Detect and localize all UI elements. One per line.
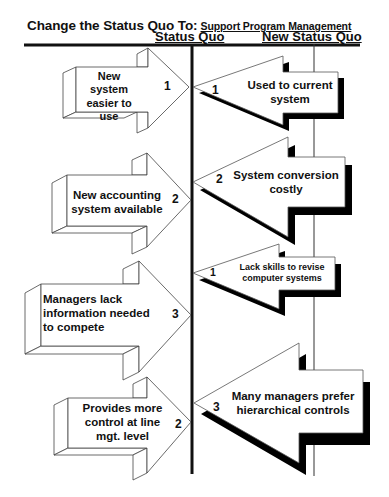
- label-line: computer systems: [228, 273, 336, 284]
- driving-force-1-strength: 1: [164, 79, 171, 93]
- label-line: costly: [227, 182, 345, 196]
- driving-force-1-label: New system easier to use: [78, 70, 140, 124]
- driving-force-4-label: Provides more control at line mgt. level: [75, 401, 170, 443]
- label-line: Used to current: [240, 78, 340, 92]
- label-line: Many managers prefer: [225, 389, 361, 403]
- restraining-force-3-strength: 1: [210, 266, 216, 278]
- label-line: Provides more: [75, 401, 170, 415]
- label-line: system available: [66, 202, 168, 216]
- restraining-force-3-label: Lack skills to revise computer systems: [228, 262, 336, 284]
- label-line: New accounting: [66, 188, 168, 202]
- label-line: information needed: [43, 306, 163, 320]
- force-field-diagram: Change the Status Quo To:Support Program…: [0, 0, 389, 497]
- column-header-new-status-quo: New Status Quo: [262, 29, 362, 44]
- restraining-force-1-strength: 1: [212, 83, 219, 97]
- label-line: hierarchical controls: [225, 403, 361, 417]
- restraining-force-2-label: System conversion costly: [227, 168, 345, 196]
- driving-force-3-strength: 3: [172, 307, 179, 321]
- restraining-force-4-label: Many managers prefer hierarchical contro…: [225, 389, 361, 417]
- driving-force-2-label: New accounting system available: [66, 188, 168, 216]
- driving-force-2-strength: 2: [172, 192, 179, 206]
- restraining-force-1-label: Used to current system: [240, 78, 340, 106]
- restraining-force-2-strength: 2: [216, 172, 223, 186]
- label-line: to compete: [43, 320, 163, 334]
- column-header-status-quo: Status Quo: [155, 29, 224, 44]
- label-line: system: [240, 92, 340, 106]
- label-line: control at line: [75, 415, 170, 429]
- label-line: mgt. level: [75, 429, 170, 443]
- restraining-force-4-strength: 3: [213, 400, 220, 414]
- label-line: Lack skills to revise: [228, 262, 336, 273]
- label-line: easier to use: [78, 97, 140, 124]
- label-line: System conversion: [227, 168, 345, 182]
- label-line: Managers lack: [43, 292, 163, 306]
- label-line: New system: [78, 70, 140, 97]
- driving-force-3-label: Managers lack information needed to comp…: [43, 292, 163, 334]
- driving-force-4-strength: 2: [175, 417, 182, 431]
